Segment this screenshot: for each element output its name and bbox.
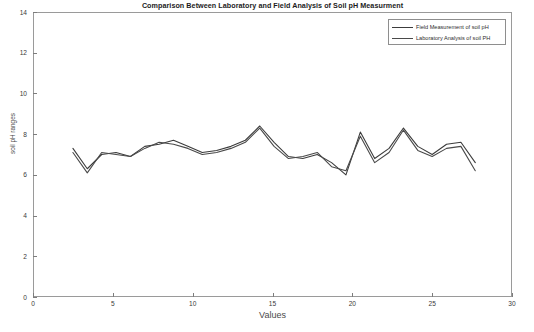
series-line-1 bbox=[73, 128, 475, 173]
y-tick-label: 4 bbox=[3, 212, 27, 219]
x-tick-label: 10 bbox=[180, 300, 206, 307]
x-tick-label: 25 bbox=[419, 300, 445, 307]
chart-title: Comparison Between Laboratory and Field … bbox=[33, 1, 512, 10]
x-tick-label: 15 bbox=[260, 300, 286, 307]
plot-lines bbox=[33, 12, 512, 297]
y-tick-label: 14 bbox=[3, 9, 27, 16]
x-tick-mark bbox=[512, 293, 513, 297]
y-tick-label: 2 bbox=[3, 253, 27, 260]
y-axis-label: soil pH ranges bbox=[9, 89, 16, 179]
x-tick-label: 0 bbox=[20, 300, 46, 307]
legend-label-laboratory: Laboratory Analysis of soil PH bbox=[416, 35, 490, 41]
legend: Field Measurement of soil pH Laboratory … bbox=[388, 19, 506, 45]
legend-line-icon-laboratory bbox=[392, 38, 413, 39]
legend-label-field: Field Measurement of soil pH bbox=[416, 24, 489, 30]
x-axis-label: Values bbox=[33, 310, 512, 320]
y-tick-mark bbox=[33, 297, 37, 298]
x-tick-label: 20 bbox=[339, 300, 365, 307]
y-tick-label: 12 bbox=[3, 49, 27, 56]
legend-line-icon-field bbox=[392, 27, 413, 28]
legend-item-field: Field Measurement of soil pH bbox=[392, 22, 489, 32]
legend-item-laboratory: Laboratory Analysis of soil PH bbox=[392, 33, 490, 43]
figure-canvas: Comparison Between Laboratory and Field … bbox=[0, 0, 534, 332]
x-tick-label: 30 bbox=[499, 300, 525, 307]
x-tick-label: 5 bbox=[100, 300, 126, 307]
series-line-0 bbox=[73, 126, 475, 175]
